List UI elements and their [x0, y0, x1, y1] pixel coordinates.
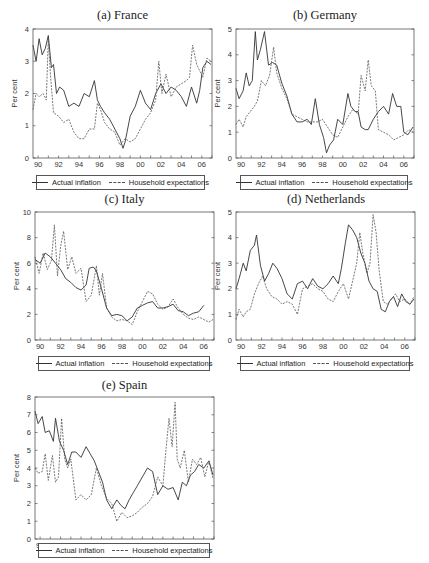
y-tick-label: 4: [27, 464, 31, 473]
x-tick-label: 96: [298, 342, 306, 351]
y-tick-label: 3: [27, 481, 31, 490]
legend-item-actual: Actual inflation: [32, 178, 101, 187]
chart-legend: Actual inflation Household expectations: [36, 175, 205, 190]
legend-item-expectations: Household expectations: [112, 546, 212, 555]
y-tick-label: 4: [27, 284, 31, 293]
y-tick-label: 2: [228, 102, 232, 111]
x-tick-label: 94: [77, 342, 85, 351]
x-tick-label: 90: [34, 160, 42, 169]
legend-item-expectations: Household expectations: [313, 359, 413, 368]
y-axis-label: Per cent: [12, 261, 21, 290]
y-tick-label: 10: [23, 208, 31, 217]
series-household-expectations: [33, 39, 211, 145]
y-tick-label: 7: [27, 410, 31, 419]
x-tick-label: 02: [159, 342, 167, 351]
chart-plot: 012345678909294969800020406Per cent: [0, 375, 215, 563]
y-tick-label: 3: [25, 57, 29, 66]
x-tick-label: 02: [360, 342, 368, 351]
x-tick-label: 04: [379, 160, 387, 169]
x-tick-label: 90: [237, 342, 245, 351]
dashed-line-icon: [112, 363, 128, 364]
x-tick-label: 04: [179, 342, 187, 351]
x-tick-label: 90: [237, 160, 245, 169]
y-tick-label: 0: [228, 154, 232, 163]
y-tick-label: 0: [228, 336, 232, 345]
series-household-expectations: [35, 225, 213, 325]
chart-legend: Actual inflation Household expectations: [240, 175, 408, 190]
x-tick-label: 94: [278, 160, 286, 169]
y-tick-label: 4: [25, 25, 29, 34]
series-actual-inflation: [35, 253, 204, 321]
y-tick-label: 1: [25, 121, 29, 130]
y-tick-label: 8: [27, 393, 31, 402]
plot-frame: [35, 212, 214, 340]
y-tick-label: 1: [228, 128, 232, 137]
y-tick-label: 0: [27, 336, 31, 345]
series-actual-inflation: [236, 225, 414, 312]
series-household-expectations: [35, 402, 213, 521]
series-actual-inflation: [35, 411, 213, 509]
solid-line-icon: [36, 550, 52, 551]
y-axis-label: Per cent: [213, 261, 222, 290]
chart-plot: 01234909294969800020406Per cent: [0, 0, 215, 195]
dashed-line-icon: [112, 550, 128, 551]
x-tick-label: 04: [177, 160, 185, 169]
panel-germany: (b) Germany 012345909294969800020406Per …: [214, 0, 429, 195]
y-axis-label: Per cent: [10, 79, 19, 108]
series-actual-inflation: [33, 36, 211, 149]
series-household-expectations: [236, 47, 413, 140]
panel-france: (a) France 01234909294969800020406Per ce…: [0, 0, 215, 195]
y-tick-label: 2: [25, 89, 29, 98]
x-tick-label: 96: [95, 160, 103, 169]
panel-spain: (e) Spain 012345678909294969800020406Per…: [0, 375, 215, 563]
x-tick-label: 98: [319, 342, 327, 351]
y-tick-label: 1: [228, 310, 232, 319]
solid-line-icon: [36, 363, 52, 364]
x-tick-label: 92: [56, 342, 64, 351]
y-tick-label: 3: [228, 76, 232, 85]
chart-legend: Actual inflation Household expectations: [240, 356, 410, 371]
x-tick-label: 98: [318, 160, 326, 169]
panel-italy: (c) Italy 0246810909294969800020406Per c…: [0, 190, 215, 375]
legend-item-expectations: Household expectations: [112, 359, 212, 368]
dashed-line-icon: [109, 182, 125, 183]
x-tick-label: 06: [198, 160, 206, 169]
solid-line-icon: [237, 363, 253, 364]
y-tick-label: 0: [27, 535, 31, 544]
chart-plot: 012345909294969800020406Per cent: [214, 190, 429, 375]
chart-legend: Actual inflation Household expectations: [38, 356, 210, 371]
x-tick-label: 00: [138, 342, 146, 351]
y-tick-label: 0: [25, 154, 29, 163]
y-tick-label: 3: [228, 259, 232, 268]
x-tick-label: 02: [157, 160, 165, 169]
x-tick-label: 94: [278, 342, 286, 351]
y-tick-label: 6: [27, 428, 31, 437]
legend-item-actual: Actual inflation: [36, 359, 105, 368]
chart-legend: Actual inflation Household expectations: [38, 543, 210, 558]
chart-plot: 0246810909294969800020406Per cent: [0, 190, 215, 375]
x-tick-label: 06: [400, 160, 408, 169]
x-tick-label: 00: [339, 160, 347, 169]
plot-frame: [236, 29, 414, 158]
x-tick-label: 92: [257, 160, 265, 169]
dashed-line-icon: [312, 182, 328, 183]
x-tick-label: 06: [401, 342, 409, 351]
legend-item-actual: Actual inflation: [237, 359, 306, 368]
y-tick-label: 6: [27, 259, 31, 268]
x-tick-label: 06: [200, 342, 208, 351]
x-tick-label: 98: [118, 342, 126, 351]
x-tick-label: 00: [136, 160, 144, 169]
y-tick-label: 5: [228, 25, 232, 34]
y-tick-label: 4: [228, 50, 232, 59]
x-tick-label: 96: [298, 160, 306, 169]
legend-item-actual: Actual inflation: [36, 546, 105, 555]
y-tick-label: 1: [27, 517, 31, 526]
x-tick-label: 04: [380, 342, 388, 351]
plot-frame: [33, 29, 212, 158]
dashed-line-icon: [313, 363, 329, 364]
legend-item-expectations: Household expectations: [109, 178, 209, 187]
x-tick-label: 92: [54, 160, 62, 169]
solid-line-icon: [236, 182, 252, 183]
legend-item-expectations: Household expectations: [312, 178, 412, 187]
y-tick-label: 2: [27, 499, 31, 508]
